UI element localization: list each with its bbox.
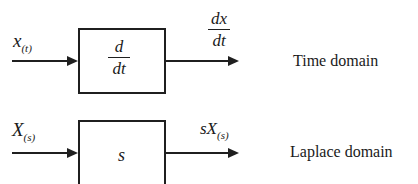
output-arrowhead (228, 148, 239, 158)
output-main: sX (200, 119, 217, 138)
output-signal-sX-s: sX(s) (200, 119, 229, 141)
laplace-operator-s: s (118, 145, 125, 166)
output-numerator: dx (211, 10, 227, 27)
output-arrowhead (228, 56, 239, 66)
laplace-domain-label: Laplace domain (290, 143, 393, 161)
input-arrowhead (67, 56, 78, 66)
input-signal-x-t: x(t) (13, 30, 32, 54)
operator-numerator: d (115, 38, 124, 55)
output-arrow-line (166, 60, 230, 62)
input-signal-X-s: X(s) (12, 119, 35, 143)
output-signal-dx-dt: dx dt (208, 10, 230, 49)
input-arrow-line (12, 60, 68, 62)
time-domain-label: Time domain (293, 52, 378, 70)
output-denominator: dt (212, 32, 225, 49)
derivative-operator: d dt (108, 38, 130, 77)
input-arrow-line (12, 152, 68, 154)
output-sub: (s) (217, 129, 229, 141)
fraction-bar (108, 57, 130, 58)
fraction-bar (208, 29, 230, 30)
input-sub: (s) (24, 131, 36, 143)
input-arrowhead (67, 148, 78, 158)
output-arrow-line (166, 152, 230, 154)
input-sub: (t) (21, 42, 31, 54)
input-main: X (12, 119, 24, 140)
operator-denominator: dt (112, 60, 125, 77)
